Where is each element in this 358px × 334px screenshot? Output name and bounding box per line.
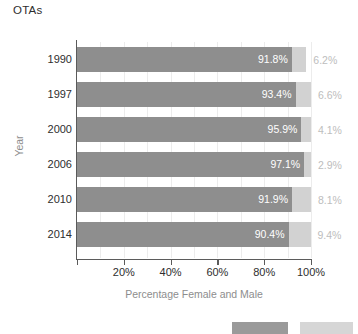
bar-segment-female[interactable]: 91.8% xyxy=(77,47,292,72)
x-axis-tick xyxy=(311,260,312,265)
bar-label-male: 4.1% xyxy=(318,124,342,135)
y-axis-tick-label: 1990 xyxy=(32,53,72,65)
bar-label-female: 90.4% xyxy=(255,229,285,240)
legend-swatch-female xyxy=(232,322,288,334)
x-axis-tick xyxy=(264,260,265,265)
bar-segment-male[interactable]: 4.1% xyxy=(301,117,311,142)
y-axis-tick-label: 2006 xyxy=(32,158,72,170)
x-axis-tick xyxy=(217,260,218,265)
bar-label-female: 97.1% xyxy=(270,159,300,170)
bar-label-female: 91.9% xyxy=(258,194,288,205)
bar-segment-female[interactable]: 90.4% xyxy=(77,222,289,247)
y-axis-tick-label: 2014 xyxy=(32,228,72,240)
bar-row[interactable]: 91.8%6.2% xyxy=(77,47,306,72)
bar-label-female: 95.9% xyxy=(268,124,298,135)
x-axis-tick-label: 100% xyxy=(281,266,341,278)
chart-title: OTAs xyxy=(13,4,42,16)
bar-label-male: 6.2% xyxy=(313,54,337,65)
plot-area: 91.8%6.2%93.4%6.6%95.9%4.1%97.1%2.9%91.9… xyxy=(77,42,311,258)
bar-label-female: 91.8% xyxy=(258,54,288,65)
bar-segment-male[interactable]: 8.1% xyxy=(292,187,311,212)
bar-label-male: 8.1% xyxy=(318,194,342,205)
bar-label-male: 2.9% xyxy=(318,159,342,170)
bar-segment-male[interactable]: 6.2% xyxy=(292,47,307,72)
bar-label-female: 93.4% xyxy=(262,89,292,100)
x-axis-tick xyxy=(124,260,125,265)
bar-row[interactable]: 91.9%8.1% xyxy=(77,187,311,212)
x-axis-title: Percentage Female and Male xyxy=(77,288,311,300)
bar-row[interactable]: 97.1%2.9% xyxy=(77,152,311,177)
bar-row[interactable]: 90.4%9.4% xyxy=(77,222,311,247)
bar-label-male: 6.6% xyxy=(318,89,342,100)
gridline xyxy=(311,42,312,258)
bar-row[interactable]: 95.9%4.1% xyxy=(77,117,311,142)
bar-segment-female[interactable]: 97.1% xyxy=(77,152,304,177)
bar-segment-female[interactable]: 91.9% xyxy=(77,187,292,212)
y-axis-tick-label: 2000 xyxy=(32,123,72,135)
bar-label-male: 9.4% xyxy=(318,229,342,240)
x-axis-tick xyxy=(77,260,78,265)
bar-segment-female[interactable]: 93.4% xyxy=(77,82,296,107)
bar-segment-male[interactable]: 9.4% xyxy=(289,222,311,247)
x-axis-tick xyxy=(171,260,172,265)
y-axis-tick-labels: 199019972000200620102014 xyxy=(28,42,72,258)
x-axis-tick-labels: 20%40%60%80%100% xyxy=(45,266,345,282)
bar-segment-male[interactable]: 2.9% xyxy=(304,152,311,177)
y-axis-tick-label: 1997 xyxy=(32,88,72,100)
legend-swatch-male xyxy=(300,322,353,334)
chart-legend xyxy=(0,322,358,334)
bar-row[interactable]: 93.4%6.6% xyxy=(77,82,311,107)
bar-segment-male[interactable]: 6.6% xyxy=(296,82,311,107)
y-axis-title: Year xyxy=(13,121,25,171)
y-axis-tick-label: 2010 xyxy=(32,193,72,205)
bar-segment-female[interactable]: 95.9% xyxy=(77,117,301,142)
